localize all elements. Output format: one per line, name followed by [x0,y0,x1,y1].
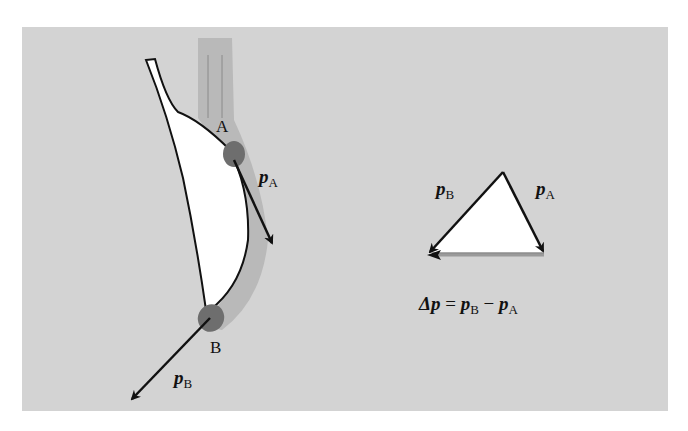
label-pb: pB [172,367,193,391]
triangle-label-pa: pA [534,178,556,202]
momentum-diagram: A B pA pB pB pA Δp = pB − pA [0,0,688,431]
point-a-marker [223,141,245,167]
label-point-b: B [210,338,221,357]
arrow-pb [132,318,210,399]
label-pa: pA [257,166,279,190]
triangle-label-pb: pB [434,178,455,202]
label-point-a: A [216,117,229,136]
momentum-equation: Δp = pB − pA [418,293,519,317]
